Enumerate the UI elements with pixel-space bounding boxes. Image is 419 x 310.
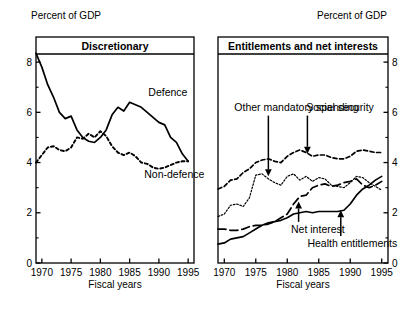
y-tick-label: 8 — [392, 57, 398, 68]
panel-title: Entitlements and net interests — [228, 40, 378, 52]
y-axis-title: Percent of GDP — [317, 10, 387, 21]
x-tick-label: 1975 — [245, 267, 268, 278]
y-tick-label: 0 — [392, 258, 398, 269]
x-tick-label: 1995 — [371, 267, 394, 278]
annotation-label: Health entitlements — [307, 237, 397, 249]
x-tick-label: 1980 — [276, 267, 299, 278]
x-tick-label: 1970 — [213, 267, 236, 278]
y-tick-label: 6 — [392, 107, 398, 118]
y-tick-label: 2 — [392, 207, 398, 218]
figure-root: Discretionary024681970197519801985199019… — [0, 0, 419, 310]
x-tick-label: 1990 — [339, 267, 362, 278]
annotation-label: Net interest — [291, 223, 345, 235]
annotation-label: Other mandatory spending — [234, 101, 358, 113]
x-axis-title: Fiscal years — [276, 279, 329, 290]
x-tick-label: 1985 — [308, 267, 331, 278]
panel-entitlements: Entitlements and net interests0246819701… — [0, 0, 419, 310]
y-tick-label: 4 — [392, 157, 398, 168]
